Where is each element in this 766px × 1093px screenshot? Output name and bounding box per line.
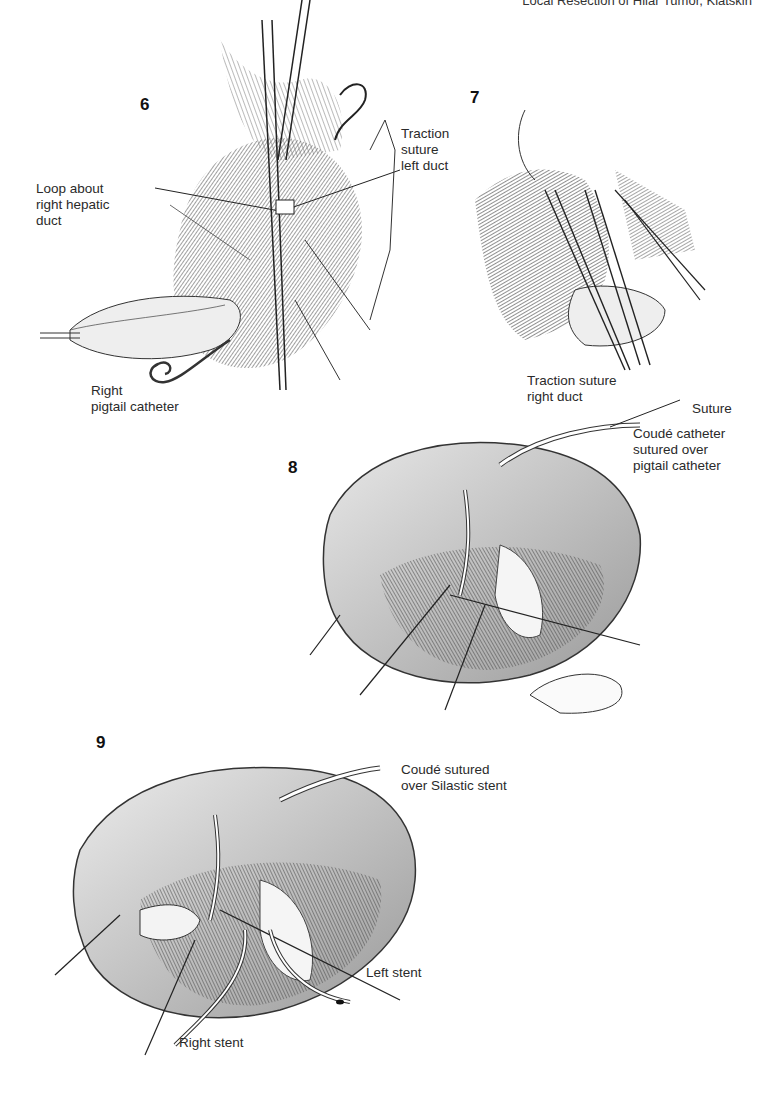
figure-number: 8 [288, 458, 297, 478]
label-loop-right-hepatic-duct: Loop about right hepatic duct [36, 181, 110, 229]
label-left-stent: Left stent [366, 965, 422, 981]
surgical-illustration-8 [300, 395, 680, 715]
label-coude-silastic-stent: Coudé sutured over Silastic stent [401, 762, 507, 794]
label-right-stent: Right stent [179, 1035, 244, 1051]
surgical-illustration-7 [465, 90, 725, 390]
label-right-pigtail-catheter: Right pigtail catheter [91, 383, 179, 415]
label-traction-suture-left-duct: Traction suture left duct [401, 126, 449, 174]
running-header: Local Resection of Hilar Tumor, Klatskin [522, 0, 752, 8]
label-coude-catheter: Coudé catheter sutured over pigtail cath… [633, 426, 725, 474]
label-suture: Suture [692, 401, 732, 417]
